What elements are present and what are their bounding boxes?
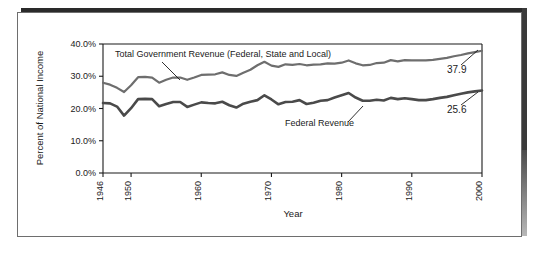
figure-frame — [17, 12, 522, 237]
figure-shadow-right-gradient — [522, 150, 527, 236]
